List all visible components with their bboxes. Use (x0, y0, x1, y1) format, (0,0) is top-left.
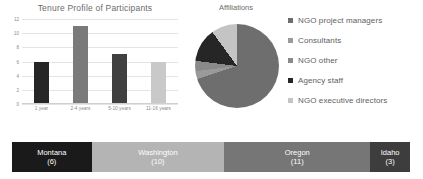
legend-item[interactable]: NGO other (288, 50, 421, 70)
y-axis-tick-label: 4 (16, 73, 19, 78)
x-axis-labels: 1 year2-4 years5-10 years11-16 years (22, 106, 178, 111)
legend-item[interactable]: Consultants (288, 30, 421, 50)
legend-item-label: NGO other (298, 56, 338, 65)
bar-slot (61, 19, 100, 104)
legend-swatch-icon (288, 98, 293, 103)
legend-item-label: Agency staff (298, 76, 343, 85)
bar-plot-area: 121086420 (22, 19, 178, 104)
figure-panel: Tenure Profile of Participants 121086420… (0, 0, 423, 179)
y-axis-tick-label: 8 (16, 45, 19, 50)
state-segment[interactable]: Washington(10) (92, 142, 225, 172)
legend-swatch-icon (288, 18, 293, 23)
bar-chart-title: Tenure Profile of Participants (0, 3, 190, 13)
legend-swatch-icon (288, 78, 293, 83)
legend-swatch-icon (288, 58, 293, 63)
state-segment-count: (11) (291, 157, 304, 166)
bar-series (22, 19, 178, 104)
pie-legend: NGO project managersConsultantsNGO other… (288, 10, 421, 110)
bar (34, 62, 49, 105)
pie-graphic (195, 24, 279, 108)
legend-item-label: NGO project managers (298, 16, 382, 25)
state-distribution-bar: Montana(6)Washington(10)Oregon(11)Idaho(… (12, 142, 410, 172)
state-segment-name: Washington (138, 148, 177, 157)
y-axis-tick-label: 2 (16, 87, 19, 92)
y-axis-tick-label: 12 (14, 17, 19, 22)
bar (112, 54, 127, 104)
x-axis-tick-label: 11-16 years (139, 106, 178, 111)
state-segment[interactable]: Idaho(3) (370, 142, 410, 172)
state-segment-name: Oregon (285, 148, 310, 157)
legend-item[interactable]: Agency staff (288, 70, 421, 90)
state-segment-count: (6) (47, 157, 56, 166)
state-segment[interactable]: Montana(6) (12, 142, 92, 172)
legend-item[interactable]: NGO project managers (288, 10, 421, 30)
bar (151, 62, 166, 105)
bar (73, 26, 88, 104)
gridline: 0 (22, 104, 178, 105)
x-axis-tick-label: 2-4 years (61, 106, 100, 111)
state-segment-count: (10) (151, 157, 164, 166)
legend-item-label: NGO executive directors (298, 96, 387, 105)
bar-slot (139, 19, 178, 104)
state-segment-name: Montana (37, 148, 66, 157)
affiliations-pie-chart: Affiliations (186, 0, 286, 120)
tenure-bar-chart: Tenure Profile of Participants 121086420… (0, 0, 190, 120)
bar-slot (22, 19, 61, 104)
state-segment[interactable]: Oregon(11) (224, 142, 370, 172)
state-segment-name: Idaho (381, 148, 400, 157)
y-axis-tick-label: 6 (16, 59, 19, 64)
y-axis-tick-label: 10 (14, 31, 19, 36)
bar-slot (100, 19, 139, 104)
legend-item[interactable]: NGO executive directors (288, 90, 421, 110)
x-axis-tick-label: 1 year (22, 106, 61, 111)
y-axis-tick-label: 0 (16, 102, 19, 107)
legend-swatch-icon (288, 38, 293, 43)
x-axis-line (22, 103, 178, 104)
state-segment-count: (3) (386, 157, 395, 166)
pie-chart-title: Affiliations (186, 3, 286, 12)
x-axis-tick-label: 5-10 years (100, 106, 139, 111)
legend-item-label: Consultants (298, 36, 341, 45)
